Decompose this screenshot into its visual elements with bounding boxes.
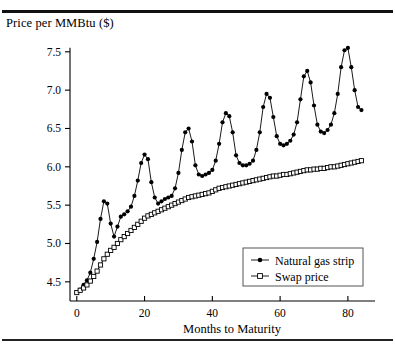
data-point-marker: [271, 115, 275, 119]
data-point-marker: [332, 111, 336, 115]
data-point-marker: [207, 171, 211, 175]
data-point-marker: [325, 128, 329, 132]
data-point-marker: [254, 148, 258, 152]
data-point-marker: [210, 168, 214, 172]
data-point-marker: [139, 161, 143, 165]
data-point-marker: [315, 123, 319, 127]
data-point-marker: [92, 257, 96, 261]
legend-label: Swap price: [275, 270, 329, 284]
y-axis: 4.55.05.56.06.57.07.5: [47, 46, 70, 301]
data-point-marker: [339, 65, 343, 69]
data-point-marker: [224, 111, 228, 115]
data-point-marker: [122, 212, 126, 216]
data-point-marker: [227, 114, 231, 118]
data-point-marker: [359, 108, 363, 112]
x-tick-label: 20: [139, 307, 151, 319]
data-point-marker: [349, 65, 353, 69]
data-point-marker: [109, 221, 113, 225]
data-point-marker: [132, 194, 136, 198]
y-tick-label: 4.5: [47, 276, 62, 288]
data-point-marker: [146, 157, 150, 161]
x-axis: 020406080: [70, 296, 375, 319]
data-point-marker: [220, 120, 224, 124]
data-point-marker: [170, 194, 174, 198]
data-point-marker: [275, 134, 279, 138]
data-point-marker: [346, 46, 350, 50]
data-point-marker: [231, 130, 235, 134]
chart-legend: Natural gas stripSwap price: [243, 248, 363, 286]
data-point-marker: [302, 74, 306, 78]
data-point-marker: [88, 279, 92, 283]
data-point-marker: [105, 202, 109, 206]
x-tick-label: 0: [74, 307, 80, 319]
data-point-marker: [98, 217, 102, 221]
data-point-marker: [268, 96, 272, 100]
data-point-marker: [136, 179, 140, 183]
data-point-marker: [193, 163, 197, 167]
data-point-marker: [234, 153, 238, 157]
x-tick-label: 40: [207, 307, 219, 319]
data-point-marker: [305, 69, 309, 73]
x-axis-title: Months to Maturity: [183, 322, 282, 336]
data-point-marker: [176, 171, 180, 175]
data-point-marker: [173, 186, 177, 190]
data-point-marker: [142, 152, 146, 156]
data-point-marker: [214, 159, 218, 163]
data-point-marker: [190, 139, 194, 143]
data-point-marker: [292, 133, 296, 137]
data-point-marker: [248, 162, 252, 166]
y-tick-label: 7.0: [47, 84, 62, 96]
legend-marker-open-square-icon: [258, 274, 263, 279]
data-point-marker: [309, 80, 313, 84]
data-point-marker: [112, 234, 116, 238]
data-point-marker: [295, 120, 299, 124]
data-point-marker: [288, 139, 292, 143]
data-point-marker: [95, 269, 99, 273]
data-point-marker: [353, 88, 357, 92]
data-point-marker: [251, 159, 255, 163]
data-point-marker: [98, 263, 102, 267]
data-point-marker: [312, 103, 316, 107]
y-tick-label: 6.5: [47, 122, 62, 134]
y-tick-label: 5.0: [47, 237, 62, 249]
legend-label: Natural gas strip: [275, 254, 354, 268]
x-tick-label: 80: [342, 307, 354, 319]
data-point-marker: [322, 131, 326, 135]
data-point-marker: [285, 142, 289, 146]
figure-container: Price per MMBtu ($) 4.55.05.56.06.57.07.…: [0, 0, 395, 353]
data-point-marker: [329, 123, 333, 127]
data-point-marker: [298, 97, 302, 101]
data-point-marker: [356, 105, 360, 109]
data-point-marker: [92, 274, 96, 278]
y-tick-label: 5.5: [47, 199, 62, 211]
data-point-marker: [102, 257, 106, 261]
data-point-marker: [336, 92, 340, 96]
line-chart-plot: 4.55.05.56.06.57.07.5 020406080 Natural …: [0, 0, 395, 353]
data-point-marker: [180, 148, 184, 152]
y-tick-label: 6.0: [47, 161, 62, 173]
legend-marker-filled-circle-icon: [258, 258, 263, 263]
data-point-marker: [149, 180, 153, 184]
data-point-marker: [187, 126, 191, 130]
data-point-marker: [153, 195, 157, 199]
data-point-marker: [261, 105, 265, 109]
data-point-marker: [129, 205, 133, 209]
data-point-marker: [264, 92, 268, 96]
data-point-marker: [258, 130, 262, 134]
data-point-marker: [359, 159, 363, 163]
x-tick-label: 60: [274, 307, 286, 319]
data-point-marker: [217, 142, 221, 146]
data-point-marker: [115, 225, 119, 229]
y-tick-label: 7.5: [47, 46, 62, 58]
data-point-marker: [95, 240, 99, 244]
data-point-marker: [183, 130, 187, 134]
data-point-marker: [126, 209, 130, 213]
